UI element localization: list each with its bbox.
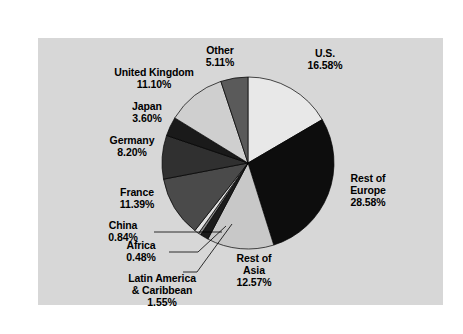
pie-label-latin-america-value: 1.55% <box>117 296 207 308</box>
chart-figure: Other 5.11% U.S. 16.58% United Kingdom 1… <box>0 0 463 334</box>
pie-label-us-value: 16.58% <box>292 59 358 71</box>
pie-label-latin-america: Latin America & Caribbean 1.55% <box>117 272 207 308</box>
pie-label-united-kingdom-name: United Kingdom <box>106 66 202 78</box>
pie-label-rest-of-asia-name-line2: Asia <box>222 264 286 276</box>
pie-label-rest-of-europe: Rest of Europe 28.58% <box>335 172 401 208</box>
pie-label-rest-of-europe-name-line2: Europe <box>335 184 401 196</box>
pie-label-rest-of-europe-name-line1: Rest of <box>335 172 401 184</box>
pie-label-united-kingdom-value: 11.10% <box>106 78 202 90</box>
pie-label-latin-america-name-line1: Latin America <box>117 272 207 284</box>
pie-label-japan: Japan 3.60% <box>118 100 176 124</box>
pie-slices <box>162 77 334 249</box>
pie-label-germany: Germany 8.20% <box>98 134 166 158</box>
pie-label-france-value: 11.39% <box>106 198 168 210</box>
pie-label-rest-of-asia-name-line1: Rest of <box>222 252 286 264</box>
pie-label-germany-value: 8.20% <box>98 146 166 158</box>
pie-label-us: U.S. 16.58% <box>292 47 358 71</box>
pie-label-africa-name: Africa <box>113 239 169 251</box>
pie-label-other-name: Other <box>191 44 249 56</box>
pie-label-china-name: China <box>95 219 151 231</box>
pie-label-africa: Africa 0.48% <box>113 239 169 263</box>
pie-label-japan-value: 3.60% <box>118 112 176 124</box>
pie-label-africa-value: 0.48% <box>113 251 169 263</box>
pie-label-us-name: U.S. <box>292 47 358 59</box>
pie-label-latin-america-name-line2: & Caribbean <box>117 284 207 296</box>
pie-label-france: France 11.39% <box>106 186 168 210</box>
pie-label-other: Other 5.11% <box>191 44 249 68</box>
pie-label-united-kingdom: United Kingdom 11.10% <box>106 66 202 90</box>
pie-label-japan-name: Japan <box>118 100 176 112</box>
pie-label-germany-name: Germany <box>98 134 166 146</box>
pie-label-rest-of-asia: Rest of Asia 12.57% <box>222 252 286 288</box>
pie-label-rest-of-asia-value: 12.57% <box>222 276 286 288</box>
pie-label-france-name: France <box>106 186 168 198</box>
pie-chart: Other 5.11% U.S. 16.58% United Kingdom 1… <box>0 0 463 334</box>
pie-label-rest-of-europe-value: 28.58% <box>335 196 401 208</box>
